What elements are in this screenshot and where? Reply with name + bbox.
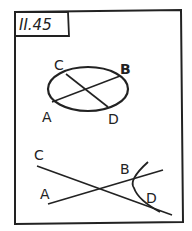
card-title: II.45 <box>19 16 52 34</box>
top-figure: C B A D <box>42 57 131 127</box>
bottom-figure: C A B D <box>34 147 172 215</box>
label-B-bottom: B <box>120 161 130 177</box>
label-B-top: B <box>120 61 131 77</box>
label-A-bottom: A <box>40 186 50 202</box>
label-C-bottom: C <box>34 147 44 163</box>
label-C-top: C <box>54 57 64 73</box>
label-D-bottom: D <box>146 190 157 206</box>
label-A-top: A <box>42 109 52 125</box>
diagram-canvas: II.45 C B A D C A B D <box>0 0 192 231</box>
label-D-top: D <box>108 111 119 127</box>
